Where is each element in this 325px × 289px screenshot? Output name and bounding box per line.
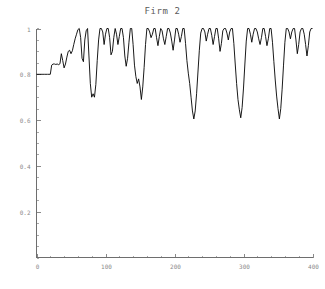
y-axis-ticks: 0.20.40.60.81: [20, 26, 41, 259]
chart-figure: Firm 2 0.20.40.60.81 0100200300400: [0, 0, 325, 289]
y-tick-label: 0.4: [20, 163, 31, 170]
y-tick-label: 0.2: [20, 209, 31, 216]
x-axis-ticks: 0100200300400: [36, 254, 320, 270]
line-chart-plot: 0.20.40.60.81 0100200300400: [0, 0, 325, 289]
data-series-line: [37, 29, 313, 119]
axis-frame: [37, 29, 313, 258]
x-tick-label: 400: [308, 263, 319, 270]
x-tick-label: 100: [101, 263, 112, 270]
y-tick-label: 1: [27, 26, 31, 33]
x-tick-label: 200: [170, 263, 181, 270]
y-tick-label: 0.8: [20, 71, 31, 78]
y-tick-label: 0.6: [20, 117, 31, 124]
x-tick-label: 300: [239, 263, 250, 270]
x-tick-label: 0: [36, 263, 40, 270]
